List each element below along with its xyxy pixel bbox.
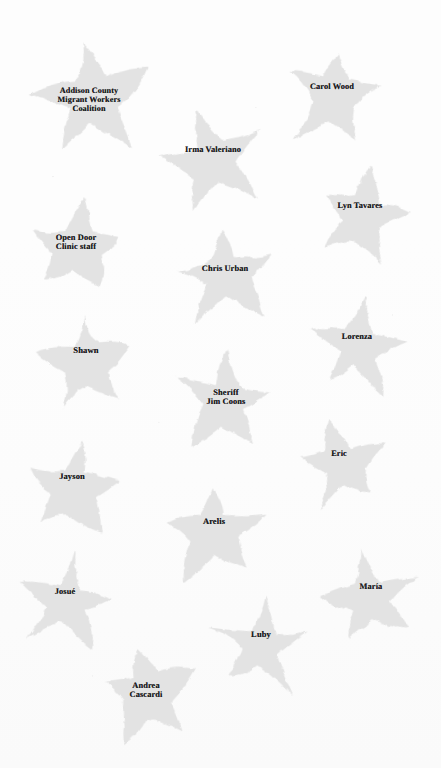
star-node-carol-wood[interactable]: Carol Wood xyxy=(280,44,388,152)
star-label: Irma Valeriano xyxy=(159,105,267,154)
star-label: Luby xyxy=(206,589,316,640)
star-node-open-door-clinic-staff[interactable]: Open Door Clinic staff xyxy=(21,193,131,303)
star-label: María xyxy=(319,544,423,591)
star-node-irma-valeriano[interactable]: Irma Valeriano xyxy=(160,108,268,216)
star-label: Chris Urban xyxy=(170,223,280,273)
star-node-lyn-tavares[interactable]: Lyn Tavares xyxy=(310,165,416,271)
star-label: Lyn Tavares xyxy=(307,162,413,210)
star-label: Jayson xyxy=(16,430,128,482)
star-label: Carol Wood xyxy=(278,42,386,91)
star-node-andrea-cascardi[interactable]: Andrea Cascardi xyxy=(93,641,201,749)
star-node-luby[interactable]: Luby xyxy=(207,591,317,701)
star-label: Eric xyxy=(288,412,390,458)
star-node-jayson[interactable]: Jayson xyxy=(17,432,129,544)
star-node-chris-urban[interactable]: Chris Urban xyxy=(171,223,281,333)
star-node-shawn[interactable]: Shawn xyxy=(31,306,143,418)
star-node-eric[interactable]: Eric xyxy=(290,414,392,516)
star-node-addison-county-migrant-workers-coalition[interactable]: Addison County Migrant Workers Coalition xyxy=(25,36,153,164)
star-node-lorenza[interactable]: Lorenza xyxy=(306,296,410,400)
star-diagram-page: Addison County Migrant Workers Coalition… xyxy=(0,0,441,768)
star-label: Open Door Clinic staff xyxy=(21,192,131,252)
star-label: Josué xyxy=(12,548,118,596)
star-node-sheriff-jim-coons[interactable]: Sheriff Jim Coons xyxy=(171,347,281,457)
star-node-maria[interactable]: María xyxy=(320,546,424,650)
star-label: Andrea Cascardi xyxy=(92,641,200,700)
star-label: Addison County Migrant Workers Coalition xyxy=(25,36,153,114)
star-label: Shawn xyxy=(30,304,142,356)
star-node-arelis[interactable]: Arelis xyxy=(160,478,270,588)
star-label: Arelis xyxy=(159,476,269,527)
star-label: Sheriff Jim Coons xyxy=(171,347,281,407)
star-label: Lorenza xyxy=(305,294,409,341)
